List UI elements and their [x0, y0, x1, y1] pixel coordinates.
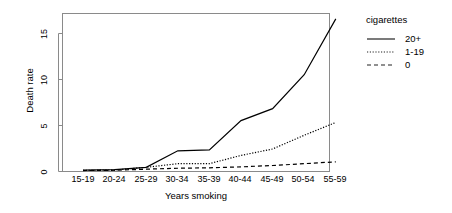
- y-tick-label: 5: [39, 118, 49, 134]
- series-line-20-: [83, 19, 336, 170]
- legend-label: 1-19: [405, 46, 424, 57]
- legend-key-dashed-icon: [366, 59, 396, 71]
- x-tick-label: 45-49: [256, 174, 288, 184]
- series-line-1-19: [83, 122, 336, 170]
- legend-key-dotted-icon: [366, 46, 396, 58]
- legend-item-0: 0: [366, 58, 452, 71]
- legend-item-1-19: 1-19: [366, 45, 452, 58]
- y-tick-label: 0: [39, 164, 49, 180]
- y-tick-label: 15: [39, 23, 49, 45]
- plot-box: [63, 14, 330, 172]
- y-axis-title: Death rate: [24, 36, 35, 146]
- legend-key-solid-icon: [366, 33, 396, 45]
- x-tick-label: 40-44: [224, 174, 256, 184]
- legend-label: 0: [405, 59, 410, 70]
- x-tick-label: 35-39: [193, 174, 225, 184]
- x-tick-label: 55-59: [319, 174, 351, 184]
- y-axis-ticks: [59, 34, 63, 172]
- legend: cigarettes 20+ 1-19 0: [366, 14, 452, 71]
- x-axis-title: Years smoking: [0, 190, 392, 201]
- y-tick-label: 10: [39, 69, 49, 91]
- x-tick-label: 25-29: [130, 174, 162, 184]
- x-tick-label: 20-24: [98, 174, 130, 184]
- chart-figure: 15 10 5 0 15-19 20-24 25-29 30-34 35-39 …: [0, 0, 452, 213]
- x-tick-label: 15-19: [67, 174, 99, 184]
- x-tick-label: 50-54: [287, 174, 319, 184]
- legend-title: cigarettes: [366, 14, 452, 25]
- legend-label: 20+: [405, 33, 421, 44]
- series-layer: [83, 19, 336, 171]
- x-tick-label: 30-34: [161, 174, 193, 184]
- legend-item-20plus: 20+: [366, 32, 452, 45]
